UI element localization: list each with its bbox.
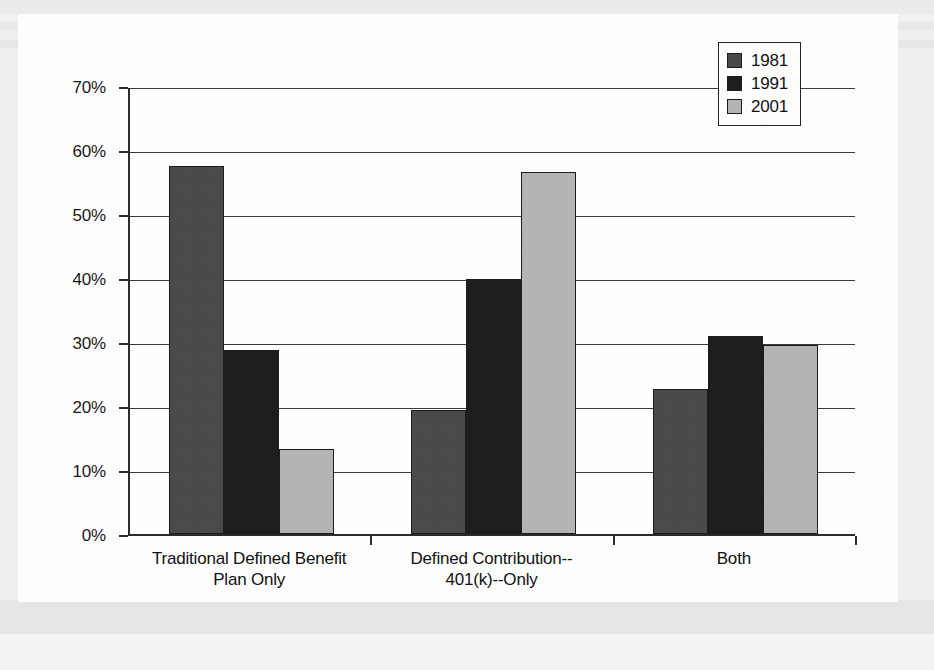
legend-item-2001[interactable]: 2001 [727,95,788,118]
gridline [130,216,855,217]
y-tick-mark [119,151,128,153]
legend-label-1981: 1981 [751,51,788,71]
x-tick-mark [855,536,857,545]
bar-1981-0[interactable] [169,166,224,534]
x-category-label-line: Plan Only [118,569,380,590]
x-tick-mark [370,536,372,545]
y-tick-mark [119,407,128,409]
plot-area [128,88,855,536]
bar-chart: 0%10%20%30%40%50%60%70% Traditional Defi… [18,14,898,602]
x-category-label: Both [603,548,865,569]
bar-2001-1[interactable] [521,172,576,534]
bar-1981-1[interactable] [411,410,466,534]
x-tick-mark [613,536,615,545]
chart-legend: 1981 1991 2001 [718,42,801,126]
bar-1981-2[interactable] [653,389,708,534]
y-tick-mark [119,87,128,89]
bar-2001-0[interactable] [279,449,334,534]
y-tick-label: 50% [34,206,106,226]
x-category-label-line: Defined Contribution-- [360,548,622,569]
y-tick-label: 10% [34,462,106,482]
legend-label-2001: 2001 [751,97,788,117]
y-tick-mark [119,535,128,537]
y-tick-mark [119,343,128,345]
bar-1991-1[interactable] [466,279,521,534]
y-tick-mark [119,279,128,281]
x-category-label-line: Both [603,548,865,569]
legend-swatch-1991 [727,76,742,91]
bar-2001-2[interactable] [763,345,818,534]
y-tick-mark [119,215,128,217]
gridline [130,152,855,153]
y-tick-label: 20% [34,398,106,418]
y-tick-label: 40% [34,270,106,290]
y-tick-mark [119,471,128,473]
bar-1991-2[interactable] [708,336,763,534]
x-category-label-line: 401(k)--Only [360,569,622,590]
x-category-label: Traditional Defined BenefitPlan Only [118,548,380,590]
legend-swatch-2001 [727,99,742,114]
legend-item-1981[interactable]: 1981 [727,49,788,72]
chart-paper: 0%10%20%30%40%50%60%70% Traditional Defi… [18,14,898,602]
y-tick-label: 30% [34,334,106,354]
y-tick-label: 70% [34,78,106,98]
legend-item-1991[interactable]: 1991 [727,72,788,95]
legend-label-1991: 1991 [751,74,788,94]
x-category-label: Defined Contribution--401(k)--Only [360,548,622,590]
y-tick-label: 60% [34,142,106,162]
x-category-label-line: Traditional Defined Benefit [118,548,380,569]
bar-1991-0[interactable] [224,350,279,534]
y-tick-label: 0% [34,526,106,546]
legend-swatch-1981 [727,53,742,68]
